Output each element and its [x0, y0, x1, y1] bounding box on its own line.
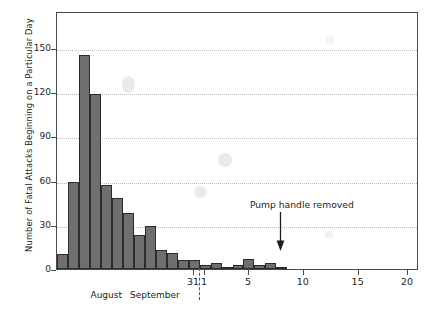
scan-smudge [326, 36, 334, 44]
histogram-bar [156, 250, 167, 269]
x-axis-tick-label: 20 [387, 276, 427, 287]
x-axis-tick-mark [204, 270, 205, 275]
x-axis-tick-mark [358, 270, 359, 275]
cholera-outbreak-histogram: Number of Fatal Attacks Beginning on a P… [0, 0, 433, 315]
histogram-bar [276, 267, 287, 269]
histogram-bar [254, 265, 265, 269]
histogram-bar [200, 265, 211, 269]
y-axis-tick-label: 30 [11, 220, 51, 230]
y-axis-tick-label: 120 [11, 87, 51, 97]
plot-area [56, 12, 418, 270]
annotation-pump-handle-removed: Pump handle removed [250, 199, 354, 210]
histogram-bar [101, 185, 112, 269]
histogram-bar [112, 198, 123, 269]
x-axis-tick-label: 5 [228, 276, 268, 287]
gridline [57, 94, 417, 95]
scan-smudge [122, 76, 135, 93]
y-axis-tick-mark [51, 270, 56, 271]
histogram-bar [265, 263, 276, 269]
down-arrow-icon [275, 212, 286, 252]
y-axis-tick-label: 90 [11, 131, 51, 141]
gridline [57, 183, 417, 184]
x-axis-tick-label: 1 [184, 276, 224, 287]
histogram-bar [233, 265, 244, 269]
histogram-bar [178, 260, 189, 269]
histogram-bar [57, 254, 68, 269]
histogram-bar [123, 213, 134, 269]
histogram-bar [90, 94, 101, 269]
x-axis-tick-mark [193, 270, 194, 275]
scan-smudge [325, 231, 333, 239]
histogram-bar [211, 263, 222, 269]
x-axis-tick-mark [248, 270, 249, 275]
histogram-bar [222, 267, 233, 269]
histogram-bar [68, 182, 79, 269]
y-axis-tick-label: 60 [11, 176, 51, 186]
scan-smudge [194, 186, 207, 198]
scan-smudge [218, 153, 232, 167]
gridline [57, 50, 417, 51]
x-axis-tick-label: 15 [338, 276, 378, 287]
histogram-bar [79, 55, 90, 269]
histogram-bar [145, 226, 156, 269]
histogram-bar [134, 235, 145, 269]
gridline [57, 138, 417, 139]
histogram-bar [243, 259, 254, 269]
histogram-bar [167, 253, 178, 269]
y-axis-tick-label: 0 [11, 264, 51, 274]
x-axis-tick-label: 10 [283, 276, 323, 287]
month-label-september: September [130, 290, 220, 300]
y-axis-tick-label: 150 [11, 43, 51, 53]
month-label-august: August [68, 290, 122, 300]
x-axis-tick-mark [407, 270, 408, 275]
x-axis-tick-mark [303, 270, 304, 275]
